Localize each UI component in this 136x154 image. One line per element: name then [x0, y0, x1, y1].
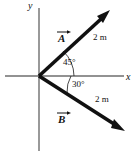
- diagram-canvas: [0, 0, 136, 154]
- x-axis-label: x: [126, 72, 130, 82]
- vector-a-label-group: A: [57, 29, 66, 45]
- angle-b-label: 30°: [72, 80, 85, 89]
- vector-b-label-group: B: [57, 110, 66, 126]
- angle-a-label: 45°: [63, 58, 76, 67]
- y-axis-label: y: [28, 1, 32, 11]
- vector-b-overbar-icon: [57, 110, 71, 115]
- angle-arc-30: [67, 76, 71, 93]
- vector-a-overbar-icon: [57, 29, 71, 34]
- vector-a-magnitude-label: 2 m: [93, 33, 107, 42]
- vector-diagram-figure: y x A B 2 m 2 m 45° 30°: [0, 0, 136, 154]
- vector-b-magnitude-label: 2 m: [95, 95, 109, 104]
